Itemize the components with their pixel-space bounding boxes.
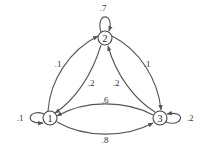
- label-1-to-3: .8: [102, 135, 109, 145]
- label-2-to-1: .2: [88, 78, 95, 88]
- label-3-to-1: .6: [102, 95, 109, 105]
- label-3-to-3: .2: [187, 113, 194, 123]
- edge-3-to-1: [57, 104, 153, 116]
- label-2-to-2: .7: [100, 3, 107, 13]
- edge-1-to-2: [48, 36, 98, 111]
- label-1-to-1: .1: [17, 113, 24, 123]
- node-2: 2: [98, 31, 112, 45]
- label-3-to-2: .2: [113, 78, 120, 88]
- node-3: 3: [153, 111, 167, 125]
- edge-2-to-2: [100, 17, 110, 32]
- node-2-label: 2: [103, 33, 108, 44]
- node-1-label: 1: [48, 113, 53, 124]
- node-1: 1: [43, 111, 57, 125]
- edge-3-to-3: [166, 113, 180, 123]
- edge-1-to-3: [57, 122, 153, 134]
- label-1-to-2: .1: [55, 59, 62, 69]
- label-2-to-3: .1: [144, 59, 151, 69]
- markov-chain-diagram: 1 2 3 .1 .1 .8 .2 .7 .1 .6 .2 .2: [0, 0, 203, 148]
- edge-1-to-1: [30, 113, 44, 123]
- node-3-label: 3: [158, 113, 163, 124]
